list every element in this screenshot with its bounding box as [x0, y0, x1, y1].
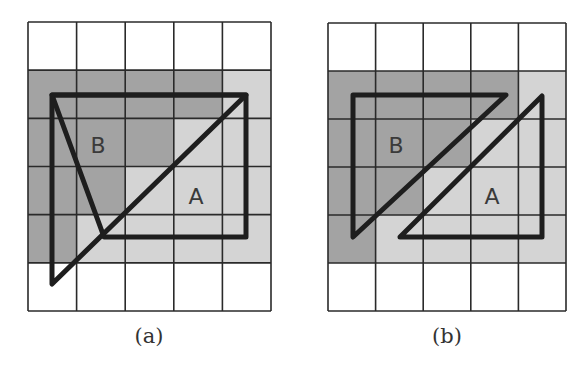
grid-cell-white	[376, 23, 424, 71]
grid-cell-dark	[125, 118, 174, 166]
grid-cell-white	[174, 22, 223, 70]
grid-cell-white	[222, 22, 271, 70]
grid-cell-white	[423, 23, 471, 71]
grid-cell-white	[328, 263, 376, 311]
grid-cell-white	[518, 263, 566, 311]
grid-cell-dark	[423, 119, 471, 167]
panel-b: BA (b)	[328, 23, 566, 348]
grid-cell-white	[125, 22, 174, 70]
panel-b-caption: (b)	[432, 324, 462, 348]
grid-cell-white	[518, 23, 566, 71]
grid-cell-white	[423, 263, 471, 311]
grid-cell-white	[77, 263, 126, 311]
grid-cell-white	[222, 263, 271, 311]
region-label-a: A	[188, 184, 203, 209]
grid-cell-white	[471, 263, 519, 311]
panel-a-caption: (a)	[135, 324, 164, 348]
region-label-b: B	[388, 133, 403, 158]
figure-canvas: BA (a) BA (b)	[0, 0, 585, 365]
grid-cell-white	[328, 23, 376, 71]
grid-cell-white	[376, 263, 424, 311]
panel-a: BA (a)	[28, 22, 271, 348]
grid-cell-white	[471, 23, 519, 71]
region-label-a: A	[484, 184, 499, 209]
grid-cell-white	[77, 22, 126, 70]
region-label-b: B	[90, 133, 105, 158]
grid-cell-white	[125, 263, 174, 311]
grid-cell-white	[28, 22, 77, 70]
grid-cell-dark	[77, 167, 126, 215]
grid-cell-white	[174, 263, 223, 311]
